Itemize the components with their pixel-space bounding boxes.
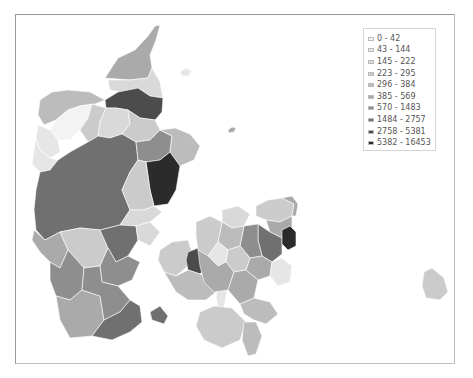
legend-item: 223 - 295 [368, 68, 435, 80]
legend-swatch [368, 141, 374, 145]
legend-item: 570 - 1483 [368, 103, 435, 115]
legend-item: 0 - 42 [368, 33, 435, 45]
legend-swatch [368, 72, 374, 76]
legend-item: 1484 - 2757 [368, 114, 435, 126]
legend-item: 5382 - 16453 [368, 137, 435, 149]
legend-swatch [368, 118, 374, 122]
legend-swatch [368, 83, 374, 87]
legend-item: 43 - 144 [368, 45, 435, 57]
legend-swatch [368, 95, 374, 99]
legend-label: 223 - 295 [377, 70, 416, 78]
legend-swatch [368, 130, 374, 134]
legend-label: 1484 - 2757 [377, 116, 426, 124]
legend-label: 0 - 42 [377, 35, 400, 43]
region-lolland[interactable] [196, 306, 246, 348]
legend-label: 145 - 222 [377, 58, 416, 66]
region-falster[interactable] [242, 322, 262, 356]
legend-label: 570 - 1483 [377, 104, 421, 112]
legend-label: 43 - 144 [377, 46, 410, 54]
region-laeso[interactable] [180, 68, 192, 76]
legend-swatch [368, 106, 374, 110]
legend-item: 2758 - 5381 [368, 126, 435, 138]
legend-swatch [368, 48, 374, 52]
legend-item: 296 - 384 [368, 79, 435, 91]
legend-label: 5382 - 16453 [377, 139, 431, 147]
legend-item: 145 - 222 [368, 56, 435, 68]
legend-item: 385 - 569 [368, 91, 435, 103]
region-copenhagen[interactable] [282, 226, 296, 250]
region-fredericia[interactable] [136, 222, 160, 246]
region-anholt[interactable] [228, 127, 236, 133]
legend-label: 296 - 384 [377, 81, 416, 89]
region-vordingborg[interactable] [240, 298, 278, 324]
legend-label: 385 - 569 [377, 93, 416, 101]
legend-label: 2758 - 5381 [377, 128, 426, 136]
region-stevns[interactable] [270, 258, 292, 286]
legend: 0 - 4243 - 144145 - 222223 - 295296 - 38… [363, 28, 436, 151]
legend-swatch [368, 60, 374, 64]
region-bornholm[interactable] [422, 268, 448, 300]
legend-swatch [368, 37, 374, 41]
